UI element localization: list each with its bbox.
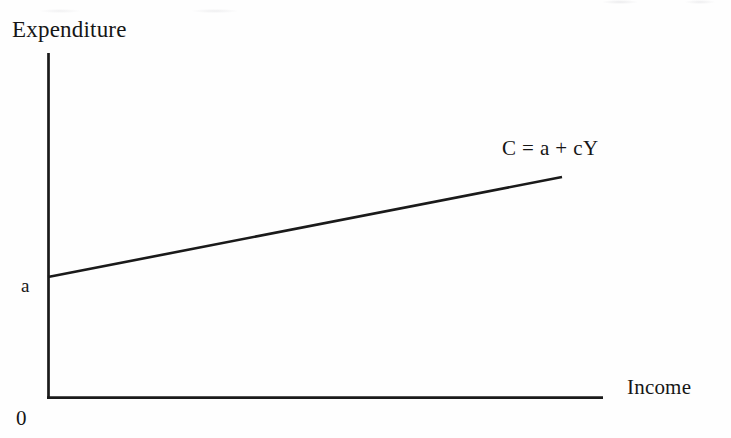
consumption-function-diagram: Expenditure a 0 Income C = a + cY — [0, 0, 731, 438]
consumption-function-equation-label: C = a + cY — [502, 138, 599, 159]
consumption-function-line — [48, 177, 562, 277]
plot-canvas — [0, 0, 731, 438]
x-axis-title: Income — [627, 377, 691, 398]
y-intercept-label: a — [21, 276, 29, 295]
y-axis-title: Expenditure — [12, 18, 127, 41]
origin-label: 0 — [16, 408, 27, 429]
